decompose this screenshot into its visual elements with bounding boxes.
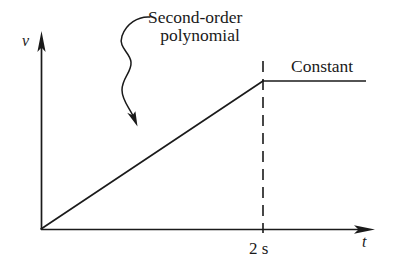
x-marker-label: 2 s	[249, 240, 268, 257]
constant-annotation: Constant	[291, 58, 353, 76]
velocity-time-figure: v t Second-order polynomial Constant 2 s	[0, 0, 405, 280]
curve-annotation-line-2: polynomial	[148, 27, 252, 45]
annotation-leader-line	[121, 17, 150, 118]
second-order-polynomial-curve	[41, 81, 263, 229]
y-axis-label: v	[22, 33, 29, 49]
x-axis-label: t	[362, 234, 366, 250]
